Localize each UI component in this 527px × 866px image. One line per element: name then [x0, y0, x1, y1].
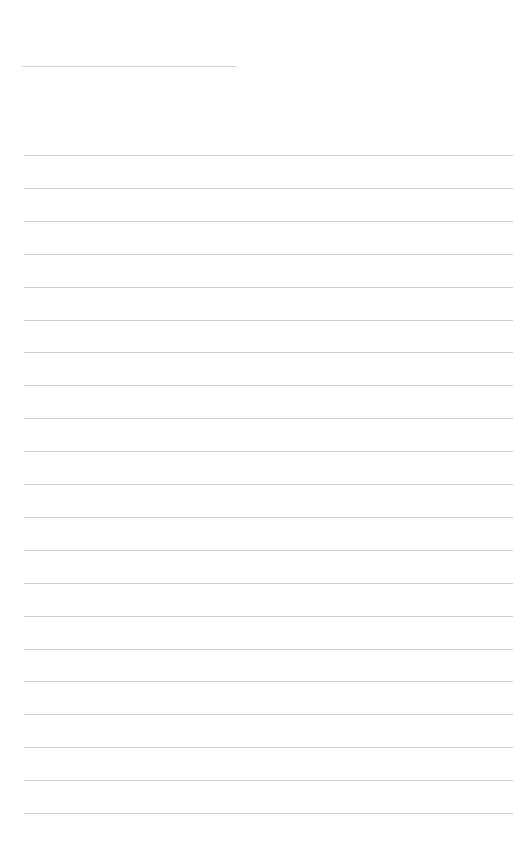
header-line	[22, 66, 236, 67]
ruled-line	[24, 451, 513, 452]
ruled-line	[24, 287, 513, 288]
ruled-line	[24, 155, 513, 156]
ruled-line	[24, 517, 513, 518]
ruled-line	[24, 221, 513, 222]
ruled-line	[24, 352, 513, 353]
ruled-line	[24, 583, 513, 584]
ruled-line	[24, 550, 513, 551]
ruled-line	[24, 747, 513, 748]
ruled-line	[24, 254, 513, 255]
ruled-line	[24, 385, 513, 386]
ruled-line	[24, 681, 513, 682]
ruled-line	[24, 616, 513, 617]
ruled-line	[24, 188, 513, 189]
ruled-line	[24, 320, 513, 321]
ruled-line	[24, 649, 513, 650]
ruled-line	[24, 484, 513, 485]
ruled-line	[24, 813, 513, 814]
ruled-line	[24, 780, 513, 781]
ruled-line	[24, 714, 513, 715]
ruled-line	[24, 418, 513, 419]
